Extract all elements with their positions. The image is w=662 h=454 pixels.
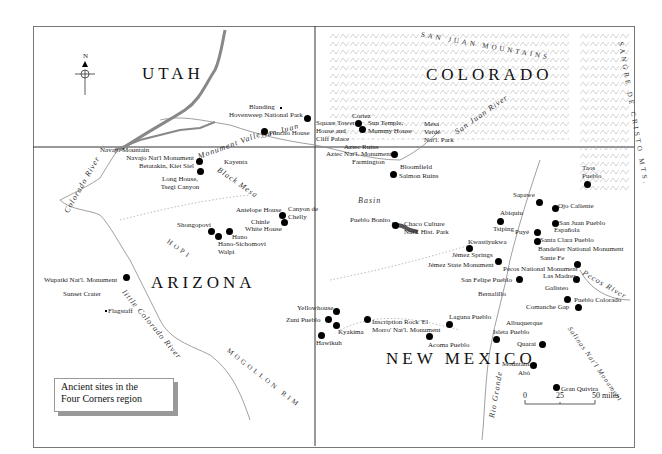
site-label: San Felipe Pueblo <box>461 276 512 284</box>
site-label: Abiquiu <box>500 209 523 217</box>
site-label: Galisteo <box>545 284 568 292</box>
site-marker <box>564 296 571 303</box>
site-label: Navajo Nat'l Monument Betatakin, Kiet Si… <box>124 154 194 170</box>
site-marker <box>534 229 541 236</box>
site-label: Ojo Caliente <box>558 202 594 210</box>
site-label: Taos Pueblo <box>582 164 606 180</box>
site-marker <box>304 115 311 122</box>
site-marker <box>536 199 543 206</box>
site-label: Aztec Nat'l. Monument <box>326 150 392 158</box>
site-marker <box>539 341 546 348</box>
site-marker <box>392 222 399 229</box>
site-label: Albuquerque <box>506 319 543 327</box>
site-marker <box>530 362 537 369</box>
site-label: Bernalillo <box>478 290 506 298</box>
site-label: Sante Fe <box>540 254 564 262</box>
map-title-box: Ancient sites in the Four Corners region <box>54 378 174 412</box>
town-marker <box>280 107 282 109</box>
site-label: Canyon de Chelly <box>288 205 320 221</box>
state-arizona: ARIZONA <box>151 273 256 293</box>
site-marker <box>359 126 366 133</box>
site-marker <box>318 332 325 339</box>
site-label: Mesa Verde Nat'l. Park <box>424 120 456 144</box>
scale-tick-25: 25 <box>556 392 564 400</box>
site-label: Sun Temple, Mummy House <box>368 119 418 135</box>
site-marker <box>281 219 288 226</box>
map-title-line1: Ancient sites in the <box>61 381 167 393</box>
site-label: Salmon Ruins <box>399 172 438 180</box>
site-marker <box>493 336 500 343</box>
site-label: Navajo Mountain <box>100 146 149 154</box>
site-label: Wupatki Nat'l. Monument <box>44 276 117 284</box>
site-marker <box>208 228 215 235</box>
site-label: Hawikuh <box>316 339 342 347</box>
site-marker <box>391 151 398 158</box>
site-label: Inscription Rock 'El Morro' Nat'l. Monum… <box>372 318 442 334</box>
site-label: Zuni Pueblo <box>286 316 320 324</box>
site-marker <box>584 181 591 188</box>
site-marker <box>495 258 502 265</box>
site-label: Square Tower House and Cliff Palace <box>316 119 356 143</box>
site-label: Isleta Pueblo <box>493 328 529 336</box>
site-label: Comanche Gap <box>526 303 569 311</box>
site-label: Jémez State Monument <box>428 261 494 269</box>
site-label: Kyakima <box>338 328 364 336</box>
state-utah: UTAH <box>142 64 204 84</box>
site-label: Long House, Tsegi Canyon <box>158 175 202 191</box>
site-marker <box>215 233 222 240</box>
site-label: Antelope House <box>236 206 281 214</box>
site-label: Poncho House <box>269 129 310 137</box>
site-label: Hovenweep National Park <box>229 111 303 119</box>
site-marker <box>123 274 130 281</box>
site-label: Bloomfield <box>400 163 432 171</box>
site-label: Kwastiyukwa <box>468 238 507 246</box>
label-basin: Basin <box>358 196 381 205</box>
site-label: Santa Clara Pueblo <box>540 236 594 244</box>
site-label: Farmington <box>352 158 385 166</box>
site-label: Sapawe <box>513 191 535 199</box>
site-label: Chaco Culture Nat'l. Hist. Park <box>404 220 454 236</box>
site-label: Pueblo Colorado <box>574 296 621 304</box>
site-marker <box>196 158 203 165</box>
site-marker <box>364 316 371 323</box>
four-corners-map: N UTAH COLORADO ARIZONA NEW MEXICO SAN J… <box>0 0 662 454</box>
site-label: Tsiping <box>493 225 514 233</box>
site-marker <box>261 128 268 135</box>
site-label: Pueblo Bonito <box>350 216 390 224</box>
site-label: Hano-Sichomovi Walpi <box>218 240 273 256</box>
site-label: Yellowhouse <box>297 304 333 312</box>
map-title-line2: Four Corners region <box>61 393 167 405</box>
site-marker <box>426 333 433 340</box>
site-label: Acoma Pueblo <box>428 341 469 349</box>
site-marker <box>553 384 560 391</box>
site-marker <box>446 321 453 328</box>
compass-north-label: N <box>83 52 88 60</box>
site-label: Las Madres <box>543 272 576 280</box>
site-marker <box>575 304 582 311</box>
site-marker <box>333 308 340 315</box>
site-label: Quarai <box>517 340 536 348</box>
site-marker <box>390 171 397 178</box>
site-label: Sunset Crater <box>63 290 101 298</box>
site-label: Abó <box>518 369 530 377</box>
site-marker <box>325 316 332 323</box>
site-label: Española <box>554 226 580 234</box>
scale-tick-0: 0 <box>523 392 527 400</box>
site-marker <box>197 168 204 175</box>
site-label: Kayenta <box>224 158 247 166</box>
site-label: Laguna Pueblo <box>449 313 491 321</box>
site-label: Blanding <box>249 103 275 111</box>
site-label: Shongopovi <box>177 221 211 229</box>
site-label: Flagstaff <box>108 307 133 315</box>
site-label: Puyé <box>515 228 529 236</box>
town-marker <box>105 310 107 312</box>
state-colorado: COLORADO <box>426 65 552 85</box>
site-marker <box>516 276 523 283</box>
site-label: White House <box>245 225 282 233</box>
scale-tick-50: 50 miles <box>592 392 619 400</box>
site-marker <box>497 218 504 225</box>
site-label: Jémez Springs <box>452 251 493 259</box>
site-label: Bandelier National Monument <box>538 245 624 253</box>
